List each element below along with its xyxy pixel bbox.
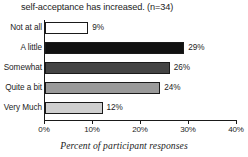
bar-track — [45, 22, 88, 34]
chart-title: self-acceptance has increased. (n=34) — [21, 1, 173, 13]
bar — [45, 62, 170, 74]
x-axis-tick — [140, 120, 141, 124]
x-axis-tick — [236, 120, 237, 124]
bar — [45, 42, 184, 54]
bar-row: Very Much12% — [0, 102, 248, 122]
category-label: A little — [0, 42, 42, 54]
bar — [45, 82, 160, 94]
x-axis-title: Percent of participant responses — [0, 140, 248, 152]
x-axis-tick — [44, 120, 45, 124]
x-axis-tick-label: 40% — [216, 125, 248, 135]
bar-track — [45, 102, 103, 114]
bar-value-label: 9% — [92, 22, 104, 34]
bar-value-label: 24% — [164, 82, 180, 94]
bar-track — [45, 82, 160, 94]
bar-value-label: 26% — [174, 62, 190, 74]
bar-value-label: 12% — [107, 102, 123, 114]
x-axis-tick-label: 30% — [168, 125, 208, 135]
category-label: Somewhat — [0, 62, 42, 74]
bar — [45, 22, 88, 34]
bar-value-label: 29% — [188, 42, 204, 54]
category-label: Very Much — [0, 102, 42, 114]
x-axis-tick-label: 10% — [72, 125, 112, 135]
y-axis-line — [44, 20, 45, 120]
bar-track — [45, 42, 184, 54]
bar-chart-figure: self-acceptance has increased. (n=34) No… — [0, 0, 248, 157]
bar — [45, 102, 103, 114]
category-label: Quite a bit — [0, 82, 42, 94]
x-axis-tick-label: 20% — [120, 125, 160, 135]
category-label: Not at all — [0, 22, 42, 34]
plot-area: Not at all9%A little29%Somewhat26%Quite … — [0, 20, 248, 120]
x-axis-tick-label: 0% — [24, 125, 64, 135]
x-axis-tick — [188, 120, 189, 124]
bar-row: A little29% — [0, 42, 248, 62]
bar-track — [45, 62, 170, 74]
bar-row: Somewhat26% — [0, 62, 248, 82]
x-axis-tick — [92, 120, 93, 124]
bar-row: Not at all9% — [0, 22, 248, 42]
bar-row: Quite a bit24% — [0, 82, 248, 102]
